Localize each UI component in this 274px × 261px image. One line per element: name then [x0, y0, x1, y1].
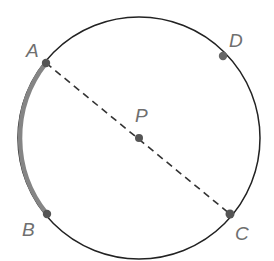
circle-diagram: A B C D P: [0, 0, 274, 261]
arc-ab: [20, 63, 47, 214]
point-b: [43, 210, 51, 218]
label-d: D: [229, 30, 243, 51]
point-p: [135, 134, 143, 142]
label-a: A: [25, 40, 39, 61]
point-a: [42, 59, 50, 67]
label-b: B: [22, 219, 35, 240]
point-d: [219, 52, 227, 60]
point-c: [226, 210, 235, 219]
label-c: C: [235, 223, 249, 244]
label-p: P: [135, 105, 148, 126]
